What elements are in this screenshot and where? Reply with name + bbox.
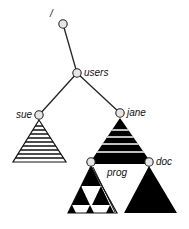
node-doc[interactable] xyxy=(145,158,153,166)
node-jane[interactable] xyxy=(116,109,124,117)
edge-users-jane xyxy=(77,73,120,113)
label-doc: doc xyxy=(156,156,172,167)
node-root[interactable] xyxy=(59,20,67,28)
node-sue[interactable] xyxy=(35,111,43,119)
label-sue: sue xyxy=(16,109,33,120)
doc-subtree-triangle xyxy=(124,166,177,213)
label-prog: prog xyxy=(106,167,127,178)
edge-root-users xyxy=(63,24,77,73)
label-root: / xyxy=(49,8,54,19)
label-users: users xyxy=(84,67,108,78)
edge-users-sue xyxy=(39,73,77,115)
sue-subtree-triangle xyxy=(0,120,80,162)
node-prog[interactable] xyxy=(87,158,95,166)
label-jane: jane xyxy=(125,107,146,118)
node-users[interactable] xyxy=(73,69,81,77)
jane-subtree-triangle xyxy=(80,118,160,164)
filesystem-tree-diagram: / users sue jane prog doc xyxy=(0,0,189,229)
